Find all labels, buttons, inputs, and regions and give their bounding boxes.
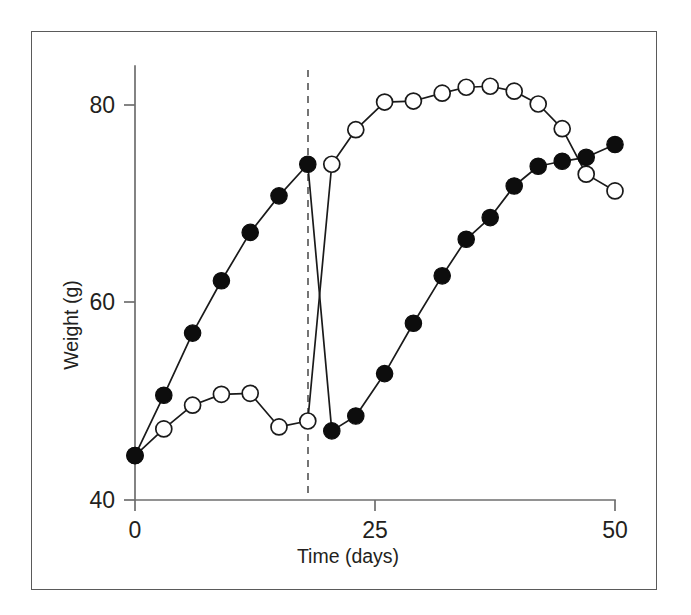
data-point-filled-circles [300,156,316,172]
data-point-open-circles [607,183,623,199]
data-point-open-circles [377,94,393,110]
open-circles-markers [127,78,623,463]
data-point-open-circles [405,93,421,109]
data-point-open-circles [348,122,364,138]
figure-root: 80 60 40 0 25 50 Weight (g) Time (days) [0,0,691,615]
data-point-filled-circles [348,408,364,424]
data-point-filled-circles [554,153,570,169]
data-point-filled-circles [434,268,450,284]
filled-circles-path [135,145,615,456]
data-point-open-circles [213,386,229,402]
data-point-filled-circles [458,231,474,247]
open-circles-line [135,86,615,455]
y-tick-label-60: 60 [89,289,115,315]
x-axis-title: Time (days) [297,545,399,567]
data-point-filled-circles [607,136,623,152]
line-chart: 80 60 40 0 25 50 Weight (g) Time (days) [0,0,691,615]
data-point-open-circles [554,121,570,137]
data-point-open-circles [185,397,201,413]
data-point-open-circles [300,413,316,429]
x-tick-label-0: 0 [129,517,142,543]
data-point-filled-circles [213,273,229,289]
data-point-open-circles [271,419,287,435]
data-point-filled-circles [376,365,392,381]
data-point-filled-circles [506,178,522,194]
data-point-open-circles [578,166,594,182]
data-point-open-circles [458,79,474,95]
data-point-open-circles [530,96,546,112]
data-point-filled-circles [530,158,546,174]
data-point-filled-circles [242,224,258,240]
data-point-filled-circles [405,315,421,331]
data-point-filled-circles [127,447,143,463]
data-point-open-circles [242,385,258,401]
data-point-filled-circles [324,423,340,439]
data-point-open-circles [482,78,498,94]
x-tick-label-50: 50 [602,517,628,543]
y-tick-label-80: 80 [89,92,115,118]
data-point-open-circles [434,85,450,101]
x-tick-label-25: 25 [362,517,388,543]
data-point-filled-circles [578,149,594,165]
y-tick-label-40: 40 [89,487,115,513]
filled-circles-line [135,145,615,456]
filled-circles-markers [127,136,623,463]
data-point-open-circles [506,83,522,99]
y-axis-title: Weight (g) [60,280,82,370]
data-point-filled-circles [184,325,200,341]
data-point-open-circles [324,156,340,172]
data-point-filled-circles [156,387,172,403]
data-point-open-circles [156,421,172,437]
data-point-filled-circles [271,188,287,204]
open-circles-path [135,86,615,455]
data-point-filled-circles [482,209,498,225]
